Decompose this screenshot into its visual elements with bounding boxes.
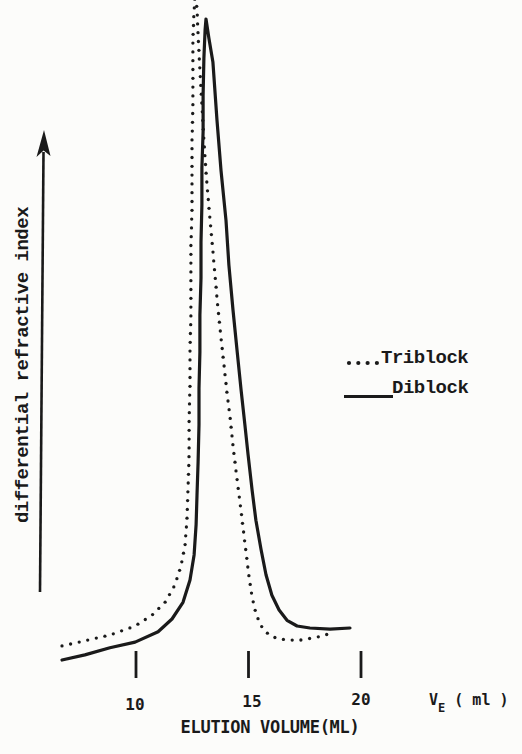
curve-diblock <box>62 19 350 660</box>
x-tick-label-15: 15 <box>242 692 261 711</box>
x-axis-label: ELUTION VOLUME(ML) <box>181 717 360 737</box>
unit-symbol: V <box>429 691 438 709</box>
scanned-chromatogram-figure: differential refractive index 10 15 20 E… <box>0 0 522 754</box>
y-axis-arrow-shaft <box>40 152 44 592</box>
unit-suffix: ( ml ) <box>445 691 508 709</box>
legend-label-diblock: Diblock <box>392 377 468 399</box>
legend-dotted-mark <box>356 361 360 365</box>
x-axis-unit-label: VE ( ml ) <box>429 691 508 712</box>
legend-dotted-mark <box>375 361 379 365</box>
legend-dotted-mark <box>347 361 351 365</box>
x-tick-label-20: 20 <box>351 690 370 709</box>
x-tick-label-10: 10 <box>125 695 144 714</box>
y-axis-arrow <box>37 130 51 592</box>
legend-dotted-mark <box>366 361 370 365</box>
legend-label-triblock: Triblock <box>381 347 468 369</box>
unit-subscript: E <box>438 701 445 715</box>
y-axis-label: differential refractive index <box>12 207 34 523</box>
